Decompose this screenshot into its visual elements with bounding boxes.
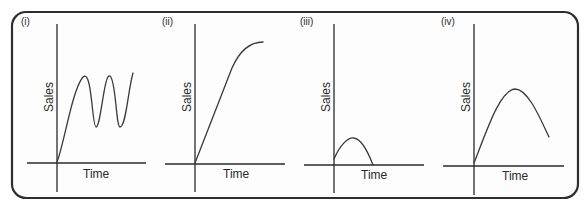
y-axis-label: Sales <box>459 82 473 112</box>
y-axis-label: Sales <box>42 82 56 112</box>
x-axis-label: Time <box>361 168 388 182</box>
panel-label: (ii) <box>162 16 173 27</box>
y-axis-label: Sales <box>319 82 333 112</box>
x-axis-label: Time <box>223 167 250 181</box>
product-life-cycle-diagram: (i)TimeSales(ii)TimeSales(iii)TimeSales(… <box>0 0 588 207</box>
x-axis-label: Time <box>83 167 110 181</box>
panel-label: (iv) <box>441 16 455 27</box>
x-axis-label: Time <box>502 169 529 183</box>
panel-label: (iii) <box>300 16 313 27</box>
y-axis-label: Sales <box>180 82 194 112</box>
panel-label: (i) <box>21 16 30 27</box>
